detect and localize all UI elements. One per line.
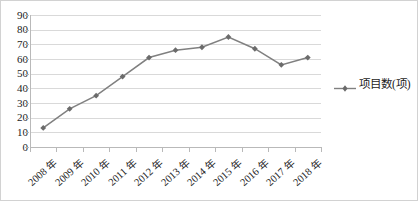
gridline bbox=[30, 44, 321, 45]
x-axis-tick-mark bbox=[295, 148, 296, 152]
x-axis-tick-mark bbox=[242, 148, 243, 152]
x-axis-tick-mark bbox=[268, 148, 269, 152]
x-axis-tick-mark bbox=[321, 148, 322, 152]
y-axis-tick-mark bbox=[25, 103, 29, 104]
y-axis-tick-mark bbox=[25, 118, 29, 119]
x-axis-tick-mark bbox=[189, 148, 190, 152]
plot-area bbox=[30, 15, 321, 147]
x-axis-tick-mark bbox=[162, 148, 163, 152]
legend-label: 项目数(项) bbox=[359, 75, 411, 91]
y-axis-tick-mark bbox=[25, 15, 29, 16]
x-axis-tick-mark bbox=[215, 148, 216, 152]
y-axis-tick-mark bbox=[25, 30, 29, 31]
gridline bbox=[30, 118, 321, 119]
gridline bbox=[30, 59, 321, 60]
gridline bbox=[30, 103, 321, 104]
gridline bbox=[30, 74, 321, 75]
legend: 项目数(项) bbox=[334, 75, 411, 91]
x-axis-tick-mark bbox=[30, 148, 31, 152]
y-axis-tick-mark bbox=[25, 44, 29, 45]
x-axis-tick-mark bbox=[136, 148, 137, 152]
x-axis-tick-mark bbox=[56, 148, 57, 152]
y-axis: 9080706050403020100 bbox=[1, 1, 28, 202]
y-axis-tick-mark bbox=[25, 147, 29, 148]
gridline bbox=[30, 15, 321, 16]
legend-marker-icon bbox=[334, 79, 356, 88]
gridline bbox=[30, 88, 321, 89]
x-axis-line bbox=[30, 147, 322, 148]
y-axis-tick-mark bbox=[25, 59, 29, 60]
y-axis-tick-mark bbox=[25, 74, 29, 75]
gridline bbox=[30, 30, 321, 31]
y-axis-line bbox=[30, 15, 31, 148]
gridline bbox=[30, 132, 321, 133]
chart-frame: 9080706050403020100 项目数(项) 2008 年2009 年2… bbox=[0, 0, 418, 201]
y-axis-tick-mark bbox=[25, 132, 29, 133]
y-axis-tick-mark bbox=[25, 88, 29, 89]
x-axis-tick-mark bbox=[83, 148, 84, 152]
x-axis-tick-mark bbox=[109, 148, 110, 152]
